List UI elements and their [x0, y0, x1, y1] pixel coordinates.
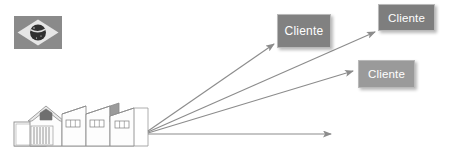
cliente-box-3-label: Cliente [368, 68, 405, 80]
arrow-to-cliente-3 [148, 71, 353, 133]
arrows-group [148, 32, 375, 134]
cliente-box-3[interactable]: Cliente [358, 60, 415, 88]
cliente-box-1[interactable]: Cliente [277, 14, 331, 48]
arrow-to-cliente-1 [148, 44, 274, 131]
cliente-box-2-label: Cliente [388, 12, 425, 24]
cliente-box-1-label: Cliente [285, 24, 324, 38]
arrow-to-cliente-2 [148, 32, 375, 132]
diagram-canvas: Cliente Cliente Cliente [0, 0, 462, 156]
cliente-box-2[interactable]: Cliente [378, 4, 435, 31]
